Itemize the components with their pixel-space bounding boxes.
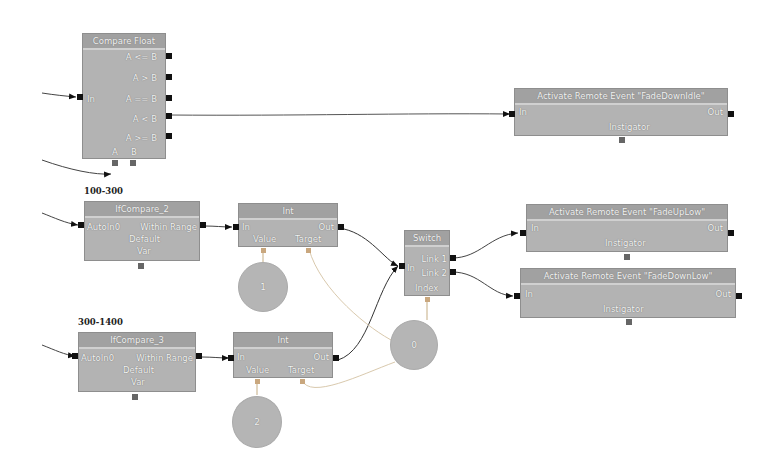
instigator-label: Instigator: [609, 122, 650, 132]
link-1-label: Link 1: [421, 254, 447, 264]
switch-link-2-pin[interactable]: [450, 269, 456, 275]
int-1-out-pin[interactable]: [338, 224, 344, 230]
autoin-label: AutoIn0: [87, 222, 120, 232]
node-title: Activate Remote Event "FadeDownIdle": [515, 89, 727, 105]
int-node-1[interactable]: Int In Out Value Target: [238, 203, 338, 247]
if-compare-2-node[interactable]: IfCompare_2 AutoIn0 Within Range Default…: [84, 201, 200, 261]
in-port-label: In: [407, 263, 415, 273]
output-label-le: A <= B: [126, 52, 157, 62]
output-label-eq: A == B: [126, 94, 157, 104]
switch-node[interactable]: Switch In Link 1 Link 2 Index: [404, 230, 450, 296]
in-port-label: In: [237, 352, 245, 362]
event-fade-down-low-node[interactable]: Activate Remote Event "FadeDownLow" In O…: [520, 268, 736, 318]
node-title: Int: [239, 204, 337, 220]
fade-up-low-instigator-pin[interactable]: [624, 254, 630, 260]
in-port-label: In: [519, 107, 527, 117]
int-2-in-pin[interactable]: [228, 355, 234, 361]
port-label-b: B: [131, 147, 137, 157]
if-compare-3-in-pin[interactable]: [72, 353, 78, 359]
out-port-label: Out: [319, 222, 334, 232]
var-label: Var: [137, 246, 151, 256]
event-fade-up-low-node[interactable]: Activate Remote Event "FadeUpLow" In Out…: [526, 204, 728, 252]
default-label: Default: [123, 365, 154, 375]
output-label-ge: A >= B: [126, 133, 157, 143]
out-port-label: Out: [716, 289, 731, 299]
switch-in-pin[interactable]: [399, 263, 405, 269]
int-1-value-pin[interactable]: [261, 248, 266, 253]
value-label: Value: [253, 234, 276, 244]
node-title: IfCompare_3: [79, 333, 195, 349]
switch-index-pin[interactable]: [425, 297, 430, 302]
if-compare-3-var-pin[interactable]: [132, 394, 138, 400]
int-node-2[interactable]: Int In Out Value Target: [233, 332, 333, 378]
fade-down-idle-in-pin[interactable]: [509, 111, 515, 117]
node-title: Activate Remote Event "FadeDownLow": [521, 269, 735, 285]
out-port-label: Out: [708, 223, 723, 233]
compare-out-pin-ge[interactable]: [166, 133, 172, 139]
fade-down-low-instigator-pin[interactable]: [626, 319, 632, 325]
if-compare-3-node[interactable]: IfCompare_3 AutoIn0 Within Range Default…: [78, 332, 196, 392]
if-compare-2-out-pin[interactable]: [200, 222, 206, 228]
int-1-target-pin[interactable]: [306, 248, 311, 253]
switch-link-1-pin[interactable]: [450, 255, 456, 261]
if-compare-2-var-pin[interactable]: [138, 263, 144, 269]
compare-out-pin-le[interactable]: [166, 53, 172, 59]
group-label-100-300: 100-300: [84, 186, 123, 196]
instigator-label: Instigator: [603, 304, 644, 314]
autoin-label: AutoIn0: [81, 353, 114, 363]
fade-up-low-in-pin[interactable]: [520, 230, 526, 236]
default-label: Default: [129, 234, 160, 244]
compare-b-pin[interactable]: [130, 160, 136, 166]
fade-down-idle-instigator-pin[interactable]: [619, 137, 625, 143]
fade-down-low-out-pin[interactable]: [736, 293, 742, 299]
int-1-in-pin[interactable]: [233, 224, 239, 230]
int-2-out-pin[interactable]: [333, 355, 339, 361]
node-title: Activate Remote Event "FadeUpLow": [527, 205, 727, 221]
fade-down-idle-out-pin[interactable]: [728, 111, 734, 117]
int-variable-0[interactable]: 0: [390, 320, 438, 370]
port-label-a: A: [112, 147, 118, 157]
compare-in-pin[interactable]: [77, 94, 83, 100]
node-title: Compare Float: [83, 34, 165, 50]
node-title: Int: [234, 333, 332, 349]
within-range-label: Within Range: [136, 353, 193, 363]
node-title: IfCompare_2: [85, 202, 199, 218]
compare-float-node[interactable]: Compare Float In A <= B A > B A == B A <…: [82, 33, 166, 159]
int-2-target-pin[interactable]: [300, 379, 305, 384]
instigator-label: Instigator: [605, 238, 646, 248]
target-label: Target: [295, 234, 321, 244]
in-port-label: In: [87, 94, 95, 104]
out-port-label: Out: [708, 107, 723, 117]
node-title: Switch: [405, 231, 449, 247]
value-label: Value: [246, 365, 269, 375]
in-port-label: In: [531, 223, 539, 233]
compare-out-pin-eq[interactable]: [166, 95, 172, 101]
compare-out-pin-lt[interactable]: [166, 113, 172, 119]
fade-down-low-in-pin[interactable]: [514, 293, 520, 299]
kismet-canvas[interactable]: Compare Float In A <= B A > B A == B A <…: [0, 0, 777, 468]
link-2-label: Link 2: [421, 268, 447, 278]
output-label-lt: A < B: [133, 114, 157, 124]
int-variable-1[interactable]: 1: [238, 262, 288, 312]
compare-out-pin-gt[interactable]: [166, 74, 172, 80]
var-label: Var: [131, 377, 145, 387]
if-compare-3-out-pin[interactable]: [196, 353, 202, 359]
if-compare-2-in-pin[interactable]: [78, 222, 84, 228]
within-range-label: Within Range: [140, 222, 197, 232]
output-label-gt: A > B: [133, 73, 157, 83]
compare-a-pin[interactable]: [112, 160, 118, 166]
index-label: Index: [415, 283, 438, 293]
fade-up-low-out-pin[interactable]: [728, 230, 734, 236]
event-fade-down-idle-node[interactable]: Activate Remote Event "FadeDownIdle" In …: [514, 88, 728, 136]
group-label-300-1400: 300-1400: [78, 317, 123, 327]
in-port-label: In: [525, 289, 533, 299]
out-port-label: Out: [314, 352, 329, 362]
int-2-value-pin[interactable]: [255, 379, 260, 384]
int-variable-2[interactable]: 2: [232, 396, 282, 448]
in-port-label: In: [242, 222, 250, 232]
target-label: Target: [288, 365, 314, 375]
